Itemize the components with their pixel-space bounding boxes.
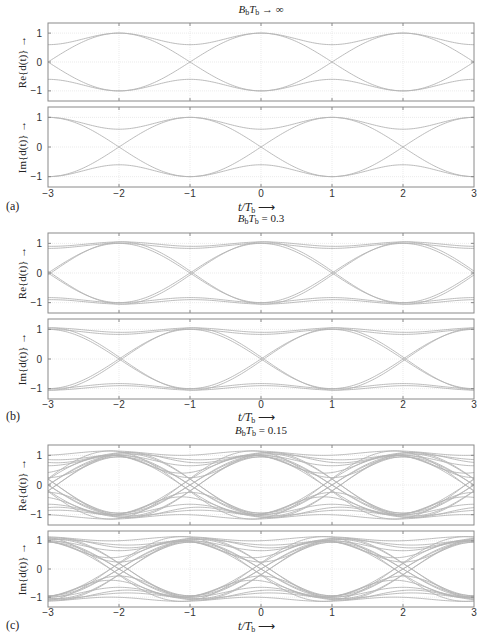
x-tick-label: 2 [400,399,406,410]
x-tick-label: 2 [400,607,406,618]
panel-title: BbTb → ∞ [238,3,283,17]
panel-title: BbTb = 0.3 [238,212,285,226]
eye-diagram-figure: BbTb → ∞10−1Re{d(t)} →10−1Im{d(t)} →−3−2… [0,0,499,638]
x-tick-label: −2 [113,188,125,199]
x-tick-label: −1 [184,188,196,199]
x-tick-label: 0 [258,607,264,618]
panel-label: (b) [6,409,20,423]
x-tick-label: 0 [258,399,264,410]
x-tick-label: −3 [42,399,54,410]
x-axis-label: t/Tb ⟶ [238,619,275,634]
y-axis-label: Re{d(t)} → [16,247,29,299]
x-tick-label: −1 [184,607,196,618]
y-tick-label: 0 [36,142,42,153]
x-tick-label: 1 [329,399,335,410]
x-tick-label: −1 [184,399,196,410]
y-tick-label: 1 [36,112,42,123]
panel-label: (c) [6,618,19,632]
y-tick-label: 0 [36,57,42,68]
y-tick-label: −1 [31,171,43,182]
y-axis-label: Im{d(t)} → [16,333,29,385]
y-axis-label: Im{d(t)} → [16,543,29,595]
x-tick-label: 0 [258,188,264,199]
y-axis-label: Im{d(t)} → [16,121,29,173]
real-part-axes [48,233,474,313]
real-part-axes [48,445,474,525]
y-tick-label: 1 [36,28,42,39]
x-tick-label: 1 [329,188,335,199]
y-tick-label: 1 [36,324,42,335]
y-tick-label: 0 [36,354,42,365]
y-tick-label: 0 [36,564,42,575]
panel-label: (a) [6,199,19,213]
y-tick-label: −1 [31,509,43,520]
x-tick-label: −2 [113,607,125,618]
y-tick-label: 0 [36,268,42,279]
y-tick-label: 1 [36,535,42,546]
x-tick-label: 2 [400,188,406,199]
panel-title: BbTb = 0.15 [235,424,287,438]
y-tick-label: 1 [36,238,42,249]
x-tick-label: −2 [113,399,125,410]
y-tick-label: 0 [36,480,42,491]
x-tick-label: 1 [329,607,335,618]
x-tick-label: 3 [471,399,477,410]
x-tick-label: −3 [42,607,54,618]
imag-part-axes [48,531,474,607]
y-axis-label: Re{d(t)} → [16,36,29,88]
y-axis-label: Re{d(t)} → [16,459,29,511]
x-tick-label: −3 [42,188,54,199]
y-tick-label: −1 [31,383,43,394]
y-tick-label: −1 [31,297,43,308]
y-tick-label: 1 [36,450,42,461]
imag-part-axes [48,107,474,187]
x-axis-label: t/Tb ⟶ [238,410,275,425]
imag-part-axes [48,319,474,399]
x-tick-label: 3 [471,607,477,618]
x-tick-label: 3 [471,188,477,199]
y-tick-label: −1 [31,592,43,603]
y-tick-label: −1 [31,85,43,96]
real-part-axes [48,23,474,101]
